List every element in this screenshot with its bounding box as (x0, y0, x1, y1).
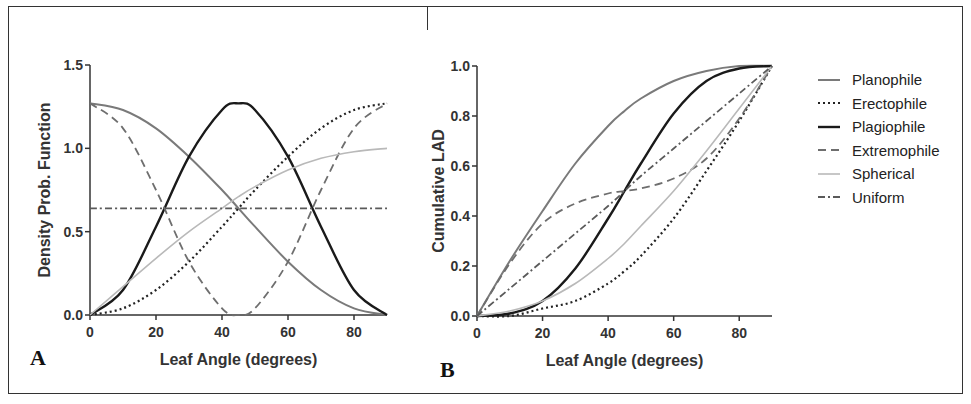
svg-text:0.0: 0.0 (451, 308, 471, 324)
svg-text:20: 20 (535, 325, 551, 341)
line-swatch-icon (818, 192, 840, 202)
svg-text:0: 0 (86, 324, 94, 340)
legend-item-spherical: Spherical (818, 162, 940, 186)
svg-text:0.4: 0.4 (451, 208, 471, 224)
legend-item-uniform: Uniform (818, 186, 940, 210)
legend-item-planophile: Planophile (818, 68, 940, 92)
svg-text:Density Prob. Function: Density Prob. Function (36, 102, 53, 277)
svg-text:80: 80 (731, 325, 747, 341)
svg-text:Leaf Angle (degrees): Leaf Angle (degrees) (160, 351, 318, 368)
svg-text:0.6: 0.6 (451, 158, 471, 174)
line-swatch-icon (818, 75, 840, 85)
legend-item-plagiophile: Plagiophile (818, 115, 940, 139)
chart-b-cumulative: 0.00.20.40.60.81.0020406080Leaf Angle (d… (430, 58, 772, 369)
line-swatch-icon (818, 169, 840, 179)
svg-text:20: 20 (148, 324, 164, 340)
svg-text:1.0: 1.0 (64, 140, 84, 156)
panel-label-b: B (440, 357, 455, 383)
legend-item-extremophile: Extremophile (818, 139, 940, 163)
svg-text:80: 80 (346, 324, 362, 340)
chart-a-density: 0.00.51.01.5020406080Leaf Angle (degrees… (36, 57, 387, 368)
svg-text:0.2: 0.2 (451, 258, 471, 274)
svg-text:Cumulative LAD: Cumulative LAD (430, 129, 447, 253)
svg-text:0.8: 0.8 (451, 108, 471, 124)
svg-text:1.5: 1.5 (64, 57, 84, 73)
line-swatch-icon (818, 98, 840, 108)
svg-text:60: 60 (666, 325, 682, 341)
panel-label-a: A (30, 345, 46, 371)
legend: Planophile Erectophile Plagiophile Extre… (818, 68, 940, 209)
svg-text:Leaf Angle (degrees): Leaf Angle (degrees) (546, 352, 704, 369)
svg-text:40: 40 (214, 324, 230, 340)
svg-text:0.0: 0.0 (64, 307, 84, 323)
svg-text:40: 40 (600, 325, 616, 341)
svg-text:1.0: 1.0 (451, 58, 471, 74)
line-swatch-icon (818, 122, 840, 132)
svg-text:60: 60 (280, 324, 296, 340)
line-swatch-icon (818, 145, 840, 155)
legend-item-erectophile: Erectophile (818, 92, 940, 116)
svg-text:0.5: 0.5 (64, 224, 84, 240)
svg-text:0: 0 (473, 325, 481, 341)
